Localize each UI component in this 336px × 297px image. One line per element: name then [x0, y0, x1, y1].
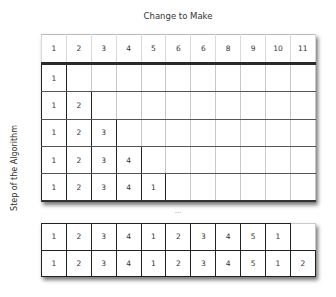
table-cell: 6	[166, 35, 191, 64]
table-cell: 4	[116, 224, 141, 251]
table-cell	[290, 92, 315, 119]
table-cell	[191, 174, 216, 202]
table-cell	[241, 119, 266, 146]
table-cell	[290, 174, 315, 202]
table-cell	[216, 119, 241, 146]
table-cell	[266, 146, 291, 173]
table-cell: 2	[66, 35, 91, 64]
table-cell: 2	[166, 224, 191, 251]
table-cell: 2	[66, 224, 91, 251]
bottom-table: 123412345112341234512	[41, 223, 316, 277]
table-cell: 1	[42, 224, 67, 251]
table-cell	[290, 224, 315, 251]
table-row: 12	[42, 92, 316, 119]
table-row: 1234	[42, 146, 316, 173]
table-cell: 4	[116, 35, 141, 64]
table-cell	[141, 146, 166, 173]
y-axis-label: Step of the Algorithm	[10, 125, 19, 211]
table-cell	[91, 92, 116, 119]
table-row: 1	[42, 64, 316, 92]
table-cell: 1	[42, 64, 67, 92]
table-cell	[290, 64, 315, 92]
top-table: 1234566891011112123123412341	[41, 34, 316, 202]
table-cell: 5	[241, 250, 266, 277]
table-cell: 10	[266, 35, 291, 64]
table-cell	[191, 64, 216, 92]
table-cell: 1	[42, 250, 67, 277]
table-cell	[290, 119, 315, 146]
table-cell	[266, 64, 291, 92]
table-cell: 2	[66, 174, 91, 202]
table-row: 12341	[42, 174, 316, 202]
table-cell	[141, 92, 166, 119]
table-cell	[241, 92, 266, 119]
table-cell: 9	[241, 35, 266, 64]
table-cell	[191, 146, 216, 173]
table-cell: 4	[216, 250, 241, 277]
table-cell: 2	[66, 250, 91, 277]
table-cell: 1	[266, 224, 291, 251]
table-cell	[66, 64, 91, 92]
table-cell	[166, 92, 191, 119]
table-cell: 3	[91, 35, 116, 64]
table-cell: 3	[91, 224, 116, 251]
table-cell	[141, 64, 166, 92]
table-cell: 8	[216, 35, 241, 64]
table-cell	[266, 119, 291, 146]
table-cell: 2	[66, 119, 91, 146]
table-cell	[166, 119, 191, 146]
table-cell	[216, 146, 241, 173]
table-cell: 3	[91, 146, 116, 173]
header-row: 1234566891011	[42, 35, 316, 64]
table-cell: 1	[42, 146, 67, 173]
table-cell	[191, 119, 216, 146]
table-cell: 2	[66, 92, 91, 119]
table-cell: 4	[116, 146, 141, 173]
table-cell	[241, 64, 266, 92]
table-cell: 2	[290, 250, 315, 277]
table-cell: 3	[91, 250, 116, 277]
table-row: 1234123451	[42, 224, 316, 251]
table-cell: 11	[290, 35, 315, 64]
table-cell	[116, 92, 141, 119]
table-cell	[216, 174, 241, 202]
table-cell: 1	[141, 250, 166, 277]
table-cell: 5	[241, 224, 266, 251]
table-cell: 1	[42, 174, 67, 202]
table-cell: 2	[166, 250, 191, 277]
table-cell: 1	[42, 119, 67, 146]
table-cell: 6	[191, 35, 216, 64]
table-cell: 3	[91, 119, 116, 146]
table-cell	[166, 64, 191, 92]
table-cell	[166, 146, 191, 173]
table-cell	[116, 119, 141, 146]
table-cell	[266, 92, 291, 119]
table-cell: 3	[91, 174, 116, 202]
table-cell	[141, 119, 166, 146]
table-row: 12341234512	[42, 250, 316, 277]
table-cell: 4	[216, 224, 241, 251]
table-cell	[290, 146, 315, 173]
table-cell	[116, 64, 141, 92]
diagram-title: Change to Make	[0, 11, 336, 21]
table-cell	[191, 92, 216, 119]
table-cell	[216, 64, 241, 92]
table-cell: 1	[141, 174, 166, 202]
table-cell	[266, 174, 291, 202]
ellipsis: ...	[0, 207, 336, 215]
table-cell	[91, 64, 116, 92]
table-row: 123	[42, 119, 316, 146]
table-cell: 1	[42, 35, 67, 64]
table-cell: 1	[266, 250, 291, 277]
table-cell: 3	[191, 224, 216, 251]
table-cell: 2	[66, 146, 91, 173]
table-cell	[216, 92, 241, 119]
table-cell: 4	[116, 250, 141, 277]
table-cell	[241, 174, 266, 202]
table-cell: 4	[116, 174, 141, 202]
table-cell: 5	[141, 35, 166, 64]
table-cell: 3	[191, 250, 216, 277]
table-cell	[241, 146, 266, 173]
table-cell: 1	[141, 224, 166, 251]
table-cell: 1	[42, 92, 67, 119]
